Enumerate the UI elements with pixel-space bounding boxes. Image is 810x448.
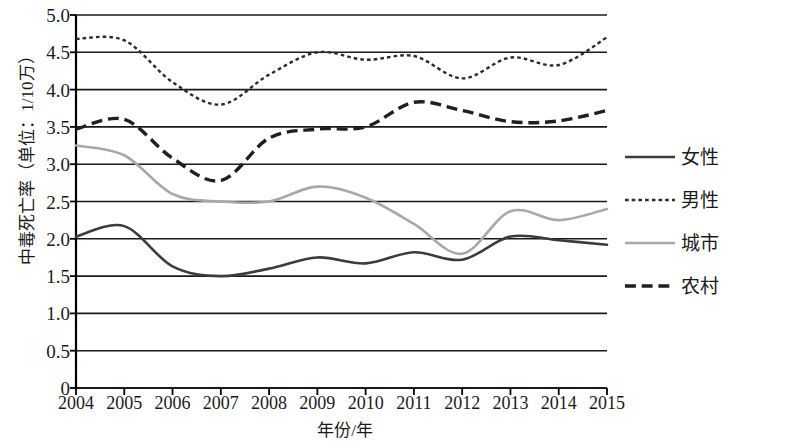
x-axis-title: 年份/年 [0, 420, 690, 442]
y-axis-tick-label: 4.0 [26, 81, 70, 100]
series-line-城市 [76, 146, 607, 254]
series-line-男性 [76, 37, 607, 105]
y-axis-tick-label: 2.0 [26, 230, 70, 249]
y-axis-tick-labels: 5.04.54.03.53.02.52.01.51.00.50 [26, 0, 70, 448]
y-axis-tick-label: 0.5 [26, 342, 70, 361]
legend-label: 农村 [681, 277, 719, 296]
y-axis-tick-label: 2.5 [26, 193, 70, 212]
plot-svg [76, 15, 607, 388]
y-axis-tick-label: 3.0 [26, 155, 70, 174]
axis-tickmarks [70, 15, 607, 395]
x-axis-tick-label: 2015 [578, 392, 636, 414]
legend-label: 城市 [681, 234, 719, 253]
legend-item-城市[interactable]: 城市 [624, 228, 719, 258]
series-line-女性 [76, 225, 607, 276]
gridlines [76, 15, 607, 388]
legend-swatch-icon [624, 193, 676, 207]
legend-item-农村[interactable]: 农村 [624, 271, 719, 301]
series-line-农村 [76, 102, 607, 181]
y-axis-tick-label: 4.5 [26, 43, 70, 62]
legend-label: 女性 [681, 148, 719, 167]
legend-swatch-icon [624, 236, 676, 250]
legend-swatch-icon [624, 150, 676, 164]
y-axis-tick-label: 5.0 [26, 6, 70, 25]
plot-area [76, 15, 607, 388]
legend-swatch-icon [624, 279, 676, 293]
legend-label: 男性 [681, 191, 719, 210]
chart-legend: 女性男性城市农村 [624, 142, 804, 302]
data-series-group [76, 37, 607, 276]
y-axis-tick-label: 3.5 [26, 118, 70, 137]
y-axis-tick-label: 1.5 [26, 267, 70, 286]
y-axis-tick-label: 1.0 [26, 304, 70, 323]
legend-item-女性[interactable]: 女性 [624, 142, 719, 172]
x-axis-tick-labels: 2004200520062007200820092010201120122013… [76, 392, 607, 418]
poisoning-mortality-line-chart: 中毒死亡率（单位：1/10万） 5.04.54.03.53.02.52.01.5… [0, 0, 810, 448]
legend-item-男性[interactable]: 男性 [624, 185, 719, 215]
